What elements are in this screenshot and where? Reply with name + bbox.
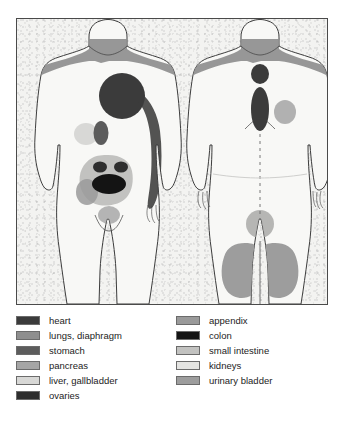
region-urinary-bladder-left-buttock [262, 243, 298, 298]
legend-item: heart [16, 314, 122, 327]
legend-label-ovaries: ovaries [49, 390, 80, 401]
region-urinary-bladder-right-buttock [222, 243, 258, 298]
referred-pain-diagram [16, 18, 328, 305]
legend-swatch-urinary-bladder [176, 376, 200, 385]
legend-item: pancreas [16, 359, 122, 372]
legend-swatch-small-intestine [176, 346, 200, 355]
legend-swatch-appendix [176, 316, 200, 325]
legend-label-lungs-diaphragm: lungs, diaphragm [49, 330, 122, 341]
legend-label-liver-gallbladder: liver, gallbladder [49, 375, 118, 386]
legend-item: small intestine [176, 344, 272, 357]
legend-swatch-ovaries [16, 391, 40, 400]
legend-swatch-lungs-diaphragm [16, 331, 40, 340]
region-ovary-right [93, 162, 107, 173]
region-pancreas [274, 100, 296, 124]
legend-column-left: heart lungs, diaphragm stomach pancreas … [16, 314, 122, 404]
legend-swatch-colon [176, 331, 200, 340]
region-ovary-left [114, 162, 128, 173]
legend-item: lungs, diaphragm [16, 329, 122, 342]
legend: heart lungs, diaphragm stomach pancreas … [16, 314, 326, 414]
legend-label-kidneys: kidneys [209, 360, 241, 371]
region-heart-posterior [251, 64, 269, 84]
legend-label-urinary-bladder: urinary bladder [209, 375, 272, 386]
region-kidneys [246, 210, 274, 238]
legend-label-small-intestine: small intestine [209, 345, 269, 356]
posterior-left-hand [313, 191, 323, 209]
legend-item: colon [176, 329, 272, 342]
legend-item: kidneys [176, 359, 272, 372]
region-colon [92, 174, 126, 194]
region-stomach-posterior [251, 87, 269, 131]
legend-swatch-stomach [16, 346, 40, 355]
legend-item: liver, gallbladder [16, 374, 122, 387]
anterior-body-figure [35, 20, 182, 305]
legend-label-pancreas: pancreas [49, 360, 88, 371]
legend-label-colon: colon [209, 330, 232, 341]
body-figures-svg [17, 19, 327, 304]
posterior-body-figure [187, 20, 327, 305]
posterior-right-hand [198, 191, 210, 209]
legend-item: appendix [176, 314, 272, 327]
legend-item: stomach [16, 344, 122, 357]
region-stomach-anterior [94, 121, 109, 145]
legend-swatch-liver-gallbladder [16, 376, 40, 385]
legend-swatch-pancreas [16, 361, 40, 370]
region-heart-chest [99, 73, 145, 119]
legend-label-appendix: appendix [209, 315, 248, 326]
legend-column-right: appendix colon small intestine kidneys u… [176, 314, 272, 389]
legend-item: ovaries [16, 389, 122, 402]
legend-label-stomach: stomach [49, 345, 85, 356]
legend-swatch-kidneys [176, 361, 200, 370]
legend-swatch-heart [16, 316, 40, 325]
legend-label-heart: heart [49, 315, 71, 326]
legend-item: urinary bladder [176, 374, 272, 387]
